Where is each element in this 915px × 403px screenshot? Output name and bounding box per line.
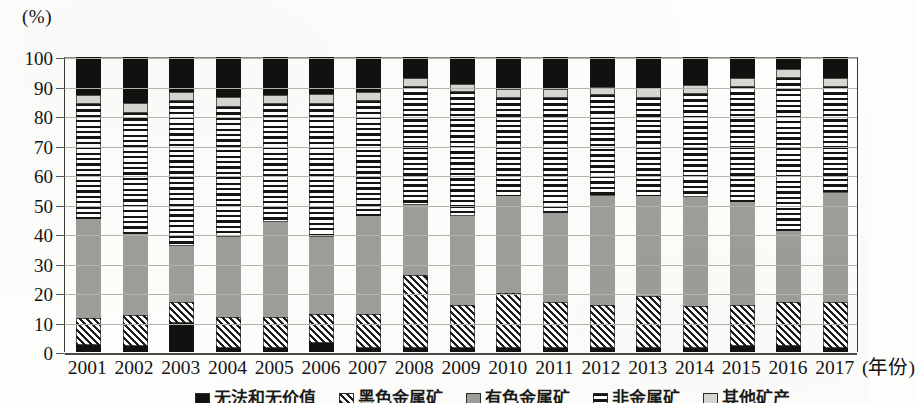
bar-segment-2002-5 <box>123 57 148 103</box>
gridline-60 <box>65 176 857 177</box>
bar-segment-2005-4 <box>263 95 288 104</box>
bar-segment-2002-3 <box>123 113 148 234</box>
y-tick-mark-40 <box>56 235 65 236</box>
bar-2009[interactable] <box>450 57 475 352</box>
gridline-100 <box>65 58 857 59</box>
x-tick-label-2012: 2012 <box>582 356 621 380</box>
bar-2011[interactable] <box>543 57 568 352</box>
bar-2005[interactable] <box>263 57 288 352</box>
x-tick-label-2014: 2014 <box>675 356 714 380</box>
bar-segment-2008-5 <box>403 57 428 78</box>
bar-segment-2004-2 <box>216 237 241 317</box>
bar-segment-2006-3 <box>309 104 334 237</box>
y-tick-label-80: 80 <box>7 108 53 127</box>
bar-segment-2011-2 <box>543 213 568 302</box>
bar-2010[interactable] <box>496 57 521 352</box>
bar-segment-2011-1 <box>543 302 568 348</box>
bar-2015[interactable] <box>730 57 755 352</box>
bar-2008[interactable] <box>403 57 428 352</box>
legend-item-2[interactable]: 有色金属矿 <box>466 388 570 403</box>
bar-2006[interactable] <box>309 57 334 352</box>
bar-segment-2012-3 <box>590 95 615 195</box>
bar-segment-2017-0 <box>823 348 848 352</box>
legend-item-3[interactable]: 非金属矿 <box>593 388 680 403</box>
legend-label-4: 其他矿产 <box>722 388 790 403</box>
x-tick-label-2002: 2002 <box>115 356 154 380</box>
y-tick-mark-50 <box>56 206 65 207</box>
bar-2017[interactable] <box>823 57 848 352</box>
bar-segment-2006-1 <box>309 314 334 344</box>
legend-swatch-3 <box>593 393 608 403</box>
bar-segment-2011-3 <box>543 98 568 213</box>
bar-segment-2005-5 <box>263 57 288 95</box>
bar-segment-2004-1 <box>216 317 241 348</box>
bar-2003[interactable] <box>169 57 194 352</box>
bar-2004[interactable] <box>216 57 241 352</box>
y-tick-mark-10 <box>56 324 65 325</box>
legend-label-0: 无法和无价值 <box>214 388 316 403</box>
legend-item-1[interactable]: 黑色金属矿 <box>339 388 443 403</box>
x-tick-label-2005: 2005 <box>255 356 294 380</box>
bar-segment-2008-0 <box>403 348 428 352</box>
bar-2012[interactable] <box>590 57 615 352</box>
bar-segment-2017-2 <box>823 193 848 302</box>
legend-label-3: 非金属矿 <box>612 388 680 403</box>
bar-segment-2013-2 <box>636 196 661 296</box>
x-tick-label-2006: 2006 <box>301 356 340 380</box>
bar-segment-2013-1 <box>636 296 661 348</box>
bar-segment-2004-3 <box>216 107 241 237</box>
gridline-0 <box>65 353 857 355</box>
bar-segment-2014-4 <box>683 85 708 94</box>
legend-item-0[interactable]: 无法和无价值 <box>195 388 316 403</box>
bar-segment-2004-4 <box>216 97 241 107</box>
legend-swatch-4 <box>703 393 718 403</box>
y-tick-mark-70 <box>56 147 65 148</box>
bar-2002[interactable] <box>123 57 148 352</box>
legend-item-4[interactable]: 其他矿产 <box>703 388 790 403</box>
bar-segment-2006-0 <box>309 343 334 352</box>
x-tick-label-2001: 2001 <box>68 356 107 380</box>
y-tick-label-0: 0 <box>7 344 53 363</box>
bar-segment-2010-4 <box>496 89 521 98</box>
bar-segment-2008-3 <box>403 87 428 205</box>
bar-2014[interactable] <box>683 57 708 352</box>
bar-2013[interactable] <box>636 57 661 352</box>
bar-segment-2012-0 <box>590 348 615 352</box>
y-tick-mark-80 <box>56 117 65 118</box>
legend-swatch-2 <box>466 393 481 403</box>
bar-segment-2016-0 <box>776 346 801 352</box>
bar-segment-2005-1 <box>263 317 288 348</box>
bar-segment-2009-1 <box>450 305 475 348</box>
gridline-80 <box>65 117 857 118</box>
bar-2016[interactable] <box>776 57 801 352</box>
y-tick-label-30: 30 <box>7 256 53 275</box>
bar-segment-2006-4 <box>309 94 334 104</box>
bar-segment-2006-2 <box>309 237 334 314</box>
bar-segment-2001-5 <box>76 57 101 95</box>
bar-segment-2009-3 <box>450 92 475 216</box>
x-tick-label-2003: 2003 <box>161 356 200 380</box>
bar-segment-2002-2 <box>123 234 148 315</box>
bar-segment-2002-1 <box>123 315 148 346</box>
bar-segment-2014-2 <box>683 197 708 306</box>
y-tick-label-90: 90 <box>7 79 53 98</box>
y-tick-mark-90 <box>56 88 65 89</box>
bar-segment-2017-5 <box>823 57 848 78</box>
bar-2001[interactable] <box>76 57 101 352</box>
bar-segment-2016-4 <box>776 69 801 78</box>
bar-segment-2009-0 <box>450 348 475 352</box>
bar-2007[interactable] <box>356 57 381 352</box>
bar-segment-2012-2 <box>590 196 615 305</box>
bar-segment-2005-0 <box>263 348 288 352</box>
bar-segment-2003-4 <box>169 92 194 101</box>
y-tick-label-70: 70 <box>7 138 53 157</box>
bar-segment-2014-0 <box>683 348 708 352</box>
y-tick-mark-30 <box>56 265 65 266</box>
legend-swatch-1 <box>339 393 354 403</box>
x-tick-label-2011: 2011 <box>535 356 573 380</box>
bar-segment-2005-2 <box>263 222 288 316</box>
bar-segment-2002-4 <box>123 103 148 113</box>
bar-segment-2002-0 <box>123 346 148 352</box>
bar-segment-2013-5 <box>636 57 661 88</box>
